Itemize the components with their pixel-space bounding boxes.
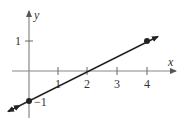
x-tick-label-1: 1 [55,77,61,91]
y-tick-label-1: 1 [15,34,21,48]
point-0-neg1 [26,98,32,104]
chart: 1 2 3 4 1 −1 x y [0,0,187,122]
x-tick-label-4: 4 [144,77,150,91]
y-axis-label: y [33,8,40,22]
x-tick-label-2: 2 [84,77,90,91]
x-tick-label-3: 3 [114,77,120,91]
x-axis-label: x [167,55,174,69]
point-4-1 [144,38,150,44]
data-line-tail [8,106,20,112]
